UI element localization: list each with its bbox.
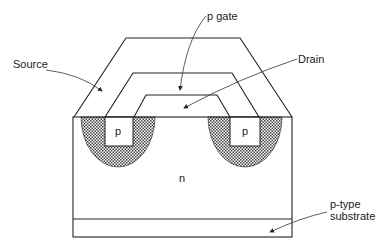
jfet-diagram: Source p gate Drain p p n p-type substra… [0,0,382,248]
substrate-label-line1: p-type [330,198,361,210]
gate-label: p gate [207,10,238,22]
source-label: Source [13,58,48,70]
substrate-label-line2: substrate [330,210,375,222]
source-contact [74,38,292,117]
drain-contact [134,95,230,117]
n-region-label: n [179,172,185,184]
gate-arrow [180,16,206,90]
substrate-arrow [270,212,327,232]
drain-label: Drain [298,53,324,65]
p-left-label: p [115,125,121,137]
drain-arrow [184,59,297,108]
p-right-label: p [242,125,248,137]
